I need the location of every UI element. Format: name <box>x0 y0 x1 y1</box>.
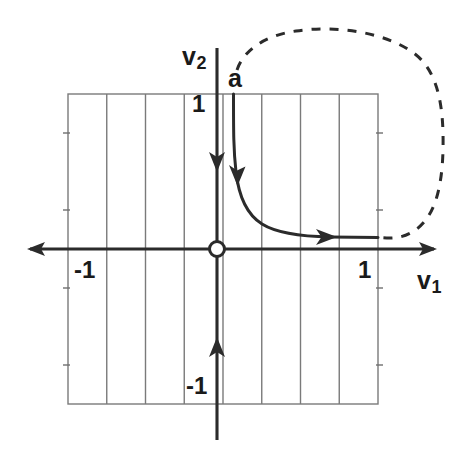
y-axis-label: v2 <box>182 44 206 72</box>
x-axis-label-base: v <box>417 266 431 294</box>
x-axis-label: v1 <box>417 268 441 296</box>
y-tick-label-positive-one: 1 <box>192 92 205 116</box>
solid-trajectory <box>234 94 379 238</box>
y-axis-label-sub: 2 <box>196 53 206 73</box>
y-tick-label-negative-one: -1 <box>186 374 207 398</box>
start-point-label: a <box>228 66 242 91</box>
x-tick-label-negative-one: -1 <box>74 258 95 282</box>
origin-marker <box>210 242 225 257</box>
dashed-closure <box>237 29 443 238</box>
phase-plane-figure: v2 v1 a 1 -1 1 -1 <box>0 0 464 456</box>
x-tick-label-positive-one: 1 <box>358 258 371 282</box>
x-axis-label-sub: 1 <box>431 277 441 297</box>
trajectory-down-arrow-icon <box>229 165 246 186</box>
axes <box>30 48 434 440</box>
y-axis-label-base: v <box>182 42 196 70</box>
axis-arrowheads <box>27 152 437 357</box>
